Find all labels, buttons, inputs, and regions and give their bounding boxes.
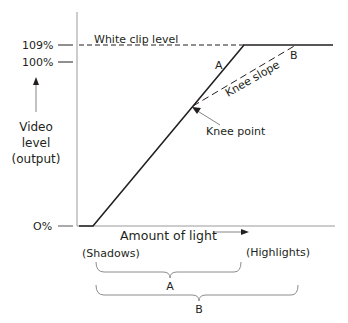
brace-b xyxy=(96,285,298,301)
y-axis-label-line1: Video xyxy=(19,120,53,134)
tick-label-109: 109% xyxy=(22,39,53,52)
knee-slope-label: Knee slope xyxy=(223,58,282,100)
x-axis-label: Amount of light xyxy=(120,228,217,243)
tick-label-100: 100% xyxy=(22,56,53,69)
knee-point-pointer xyxy=(196,110,220,125)
highlights-label: (Highlights) xyxy=(246,246,310,259)
range-b-label: B xyxy=(195,303,203,316)
curve-b-label: B xyxy=(290,49,298,62)
brace-a xyxy=(96,262,241,278)
y-axis-label-line3: (output) xyxy=(12,152,61,166)
y-axis-label-line2: level xyxy=(22,136,51,150)
knee-point-arrowhead xyxy=(192,107,201,114)
knee-diagram: 109% 100% O% Video level (output) White … xyxy=(0,0,348,323)
curve-a-label: A xyxy=(215,59,223,72)
tick-label-0: O% xyxy=(33,220,52,233)
x-arrow-head xyxy=(241,229,249,235)
range-a-label: A xyxy=(166,280,174,293)
y-arrow-head xyxy=(33,77,39,85)
knee-point-label: Knee point xyxy=(206,125,266,138)
shadows-label: (Shadows) xyxy=(82,247,140,260)
white-clip-label: White clip level xyxy=(94,33,178,46)
